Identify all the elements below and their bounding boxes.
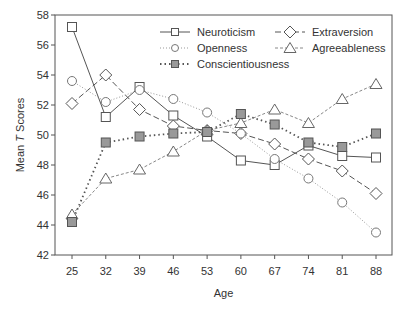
legend: NeuroticismExtraversionOpennessAgreeable… [160, 26, 386, 70]
triangle-marker-icon [100, 173, 112, 183]
series-line [72, 84, 376, 215]
square-marker-icon [169, 111, 178, 120]
legend-label: Extraversion [312, 26, 373, 38]
filled-square-marker-icon [372, 129, 381, 138]
circle-marker-icon [372, 228, 381, 237]
legend-item-neuroticism: Neuroticism [160, 26, 255, 38]
y-tick-label: 54 [37, 69, 49, 81]
legend-marker [172, 29, 179, 36]
y-tick-label: 44 [37, 219, 49, 231]
legend-marker [284, 26, 296, 38]
x-tick-label: 67 [269, 265, 281, 277]
series-layer [66, 23, 382, 238]
x-tick-label: 39 [133, 265, 145, 277]
diamond-marker-icon [269, 138, 281, 150]
filled-square-marker-icon [270, 120, 279, 129]
legend-label: Agreeableness [312, 42, 386, 54]
series-openness [72, 81, 376, 233]
circle-marker-icon [236, 129, 245, 138]
y-tick-label: 46 [37, 189, 49, 201]
y-axis: 424446485052545658 [37, 9, 55, 261]
series-line [72, 81, 376, 233]
x-axis-title: Age [214, 287, 234, 299]
series-agreeableness [72, 84, 376, 215]
legend-marker [172, 61, 179, 68]
triangle-marker-icon [167, 146, 179, 156]
triangle-marker-icon [336, 94, 348, 104]
x-tick-label: 25 [66, 265, 78, 277]
y-tick-label: 42 [37, 249, 49, 261]
legend-label: Neuroticism [197, 26, 255, 38]
legend-item-openness: Openness [160, 42, 248, 54]
diamond-marker-icon [302, 153, 314, 165]
x-axis: 25323946536067748188 [66, 255, 382, 277]
square-marker-icon [338, 152, 347, 161]
circle-marker-icon [172, 45, 179, 52]
legend-item-agreeableness: Agreeableness [275, 42, 386, 54]
legend-label: Openness [197, 42, 248, 54]
line-chart: 424446485052545658 25323946536067748188 … [0, 0, 407, 313]
x-tick-label: 46 [167, 265, 179, 277]
diamond-marker-icon [336, 165, 348, 177]
circle-marker-icon [101, 98, 110, 107]
y-axis-title: Mean T Scores [14, 97, 26, 172]
triangle-marker-icon [134, 164, 146, 174]
circle-marker-icon [304, 174, 313, 183]
series-conscientiousness [72, 114, 376, 222]
filled-square-marker-icon [203, 128, 212, 137]
triangle-marker-icon [302, 118, 314, 128]
filled-square-marker-icon [68, 218, 77, 227]
legend-marker [172, 45, 179, 52]
legend-item-conscientiousness: Conscientiousness [160, 58, 290, 70]
square-marker-icon [236, 156, 245, 165]
x-tick-label: 60 [235, 265, 247, 277]
x-tick-label: 74 [302, 265, 314, 277]
x-tick-label: 32 [100, 265, 112, 277]
triangle-marker-icon [370, 79, 382, 89]
triangle-marker-icon [269, 104, 281, 114]
markers-extraversion [66, 69, 382, 200]
x-tick-label: 53 [201, 265, 213, 277]
filled-square-marker-icon [236, 110, 245, 119]
markers-openness [68, 77, 381, 238]
y-tick-label: 58 [37, 9, 49, 21]
x-tick-label: 88 [370, 265, 382, 277]
y-axis-title-part: Mean [14, 142, 26, 173]
square-marker-icon [101, 113, 110, 122]
x-tick-label: 81 [336, 265, 348, 277]
square-marker-icon [68, 23, 77, 32]
diamond-marker-icon [284, 26, 296, 38]
circle-marker-icon [169, 95, 178, 104]
diamond-marker-icon [66, 98, 78, 110]
circle-marker-icon [203, 108, 212, 117]
y-tick-label: 52 [37, 99, 49, 111]
series-line [72, 114, 376, 222]
square-marker-icon [172, 29, 179, 36]
filled-square-marker-icon [135, 132, 144, 141]
y-tick-label: 56 [37, 39, 49, 51]
diamond-marker-icon [370, 188, 382, 200]
legend-item-extraversion: Extraversion [275, 26, 373, 38]
circle-marker-icon [68, 77, 77, 86]
filled-square-marker-icon [101, 138, 110, 147]
circle-marker-icon [338, 198, 347, 207]
filled-square-marker-icon [304, 138, 313, 147]
y-tick-label: 50 [37, 129, 49, 141]
filled-square-marker-icon [172, 61, 179, 68]
circle-marker-icon [270, 155, 279, 164]
y-tick-label: 48 [37, 159, 49, 171]
circle-marker-icon [135, 86, 144, 95]
filled-square-marker-icon [169, 129, 178, 138]
y-axis-title-part: Scores [14, 97, 26, 135]
legend-label: Conscientiousness [197, 58, 290, 70]
square-marker-icon [372, 153, 381, 162]
filled-square-marker-icon [338, 143, 347, 152]
